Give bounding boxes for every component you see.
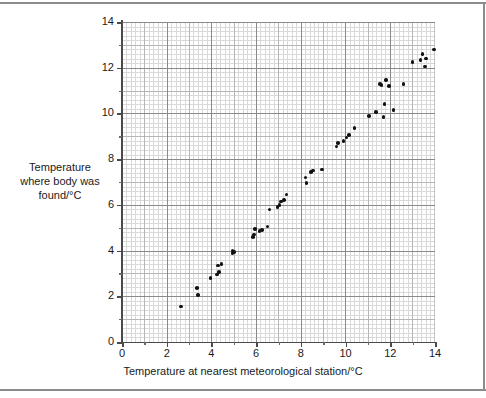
x-tick-label: 8 (286, 347, 316, 359)
x-tick-minor (279, 342, 280, 345)
data-point (432, 48, 436, 52)
data-point (278, 203, 282, 207)
x-tick-minor (368, 342, 369, 345)
x-tick-label: 0 (107, 347, 137, 359)
y-tick-minor (119, 319, 122, 320)
data-point (384, 78, 388, 82)
y-tick-major (117, 22, 122, 24)
y-tick-major (117, 68, 122, 70)
y-tick-minor (119, 91, 122, 92)
data-point (380, 83, 384, 87)
y-tick-label: 2 (92, 289, 114, 301)
y-tick-label: 10 (92, 106, 114, 118)
figure-bottom-border (0, 389, 486, 391)
data-point (423, 65, 427, 69)
x-tick-label: 14 (420, 347, 450, 359)
figure-top-border (0, 2, 486, 4)
data-point (387, 84, 391, 88)
data-point (282, 198, 286, 202)
y-tick-minor (119, 273, 122, 274)
y-tick-major (117, 205, 122, 207)
y-tick-label: 4 (92, 244, 114, 256)
y-tick-minor (119, 45, 122, 46)
grid-major (122, 22, 435, 342)
x-tick-minor (189, 342, 190, 345)
data-point (382, 115, 386, 119)
data-point (374, 110, 378, 114)
data-point (260, 228, 264, 232)
y-tick-major (117, 342, 122, 344)
data-point (336, 141, 340, 145)
data-point (347, 133, 351, 137)
y-tick-minor (119, 228, 122, 229)
x-tick-label: 2 (152, 347, 182, 359)
y-tick-label: 12 (92, 61, 114, 73)
y-tick-minor (119, 136, 122, 137)
figure-panel: 02468101214 02468101214 Temperature at n… (0, 0, 486, 398)
figure-right-border (483, 2, 485, 391)
y-tick-major (117, 113, 122, 115)
data-point (232, 250, 236, 254)
x-tick-label: 10 (331, 347, 361, 359)
x-tick-minor (413, 342, 414, 345)
y-tick-label: 14 (92, 15, 114, 27)
x-axis-label: Temperature at nearest meteorological st… (0, 365, 486, 377)
y-axis-label: Temperature where body was found/°C (18, 160, 102, 202)
x-tick-minor (323, 342, 324, 345)
scatter-plot-area (122, 22, 435, 342)
y-tick-major (117, 251, 122, 253)
y-tick-major (117, 296, 122, 298)
x-tick-label: 12 (375, 347, 405, 359)
data-point (196, 293, 200, 297)
data-point (195, 286, 199, 290)
data-point (305, 181, 309, 185)
data-point (209, 276, 213, 280)
data-point (252, 233, 256, 237)
data-point (342, 139, 346, 143)
x-tick-label: 6 (241, 347, 271, 359)
y-tick-major (117, 159, 122, 161)
y-tick-label: 0 (92, 335, 114, 347)
y-tick-minor (119, 182, 122, 183)
data-point (367, 114, 371, 118)
x-tick-minor (234, 342, 235, 345)
x-tick-label: 4 (196, 347, 226, 359)
data-point (253, 227, 257, 231)
data-point (320, 168, 324, 172)
x-tick-minor (144, 342, 145, 345)
data-point (419, 58, 423, 62)
